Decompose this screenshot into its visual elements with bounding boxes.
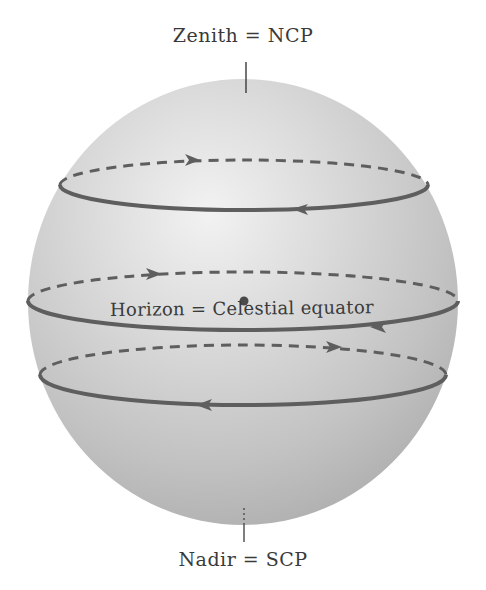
zenith-label: Zenith = NCP bbox=[0, 24, 486, 46]
celestial-sphere-diagram bbox=[0, 0, 486, 590]
nadir-label: Nadir = SCP bbox=[0, 548, 486, 570]
horizon-label: Horizon = Celestial equator bbox=[110, 296, 374, 320]
